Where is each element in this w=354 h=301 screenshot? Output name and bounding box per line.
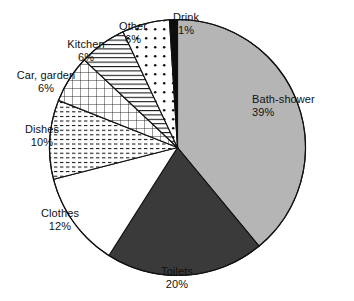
slice-label-drink-pct: 1% [162, 24, 210, 37]
slice-label-toilets-name: Toilets [143, 265, 211, 278]
slice-label-drink-name: Drink [162, 11, 210, 24]
pie-chart: Bath-shower 39% Toilets 20% Clothes 12% … [0, 0, 354, 301]
slice-label-toilets-pct: 20% [143, 278, 211, 291]
slice-label-car-garden: Car, garden 6% [4, 69, 88, 94]
slice-label-other: Other 6% [108, 20, 158, 45]
slice-label-bath-shower: Bath-shower 39% [252, 93, 315, 118]
slice-label-dishes-name: Dishes [12, 123, 72, 136]
slice-label-other-name: Other [108, 20, 158, 33]
slice-label-kitchen-pct: 6% [55, 51, 117, 64]
slice-label-car-garden-pct: 6% [4, 82, 88, 95]
slice-label-drink: Drink 1% [162, 11, 210, 36]
slice-label-clothes: Clothes 12% [29, 207, 91, 232]
pie-chart-canvas [0, 0, 354, 301]
slice-label-car-garden-name: Car, garden [4, 69, 88, 82]
slice-label-bath-shower-name: Bath-shower [252, 93, 315, 106]
slice-label-dishes: Dishes 10% [12, 123, 72, 148]
slice-label-other-pct: 6% [108, 33, 158, 46]
slice-label-toilets: Toilets 20% [143, 265, 211, 290]
slice-label-clothes-pct: 12% [29, 220, 91, 233]
slice-label-clothes-name: Clothes [29, 207, 91, 220]
slice-label-dishes-pct: 10% [12, 136, 72, 149]
slice-label-bath-shower-pct: 39% [252, 106, 315, 119]
